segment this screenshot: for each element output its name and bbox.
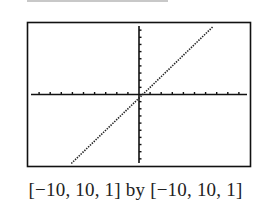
axes — [31, 26, 247, 163]
graphing-calculator-window — [0, 0, 271, 209]
window-settings-caption: [−10, 10, 1] by [−10, 10, 1] — [0, 179, 271, 201]
